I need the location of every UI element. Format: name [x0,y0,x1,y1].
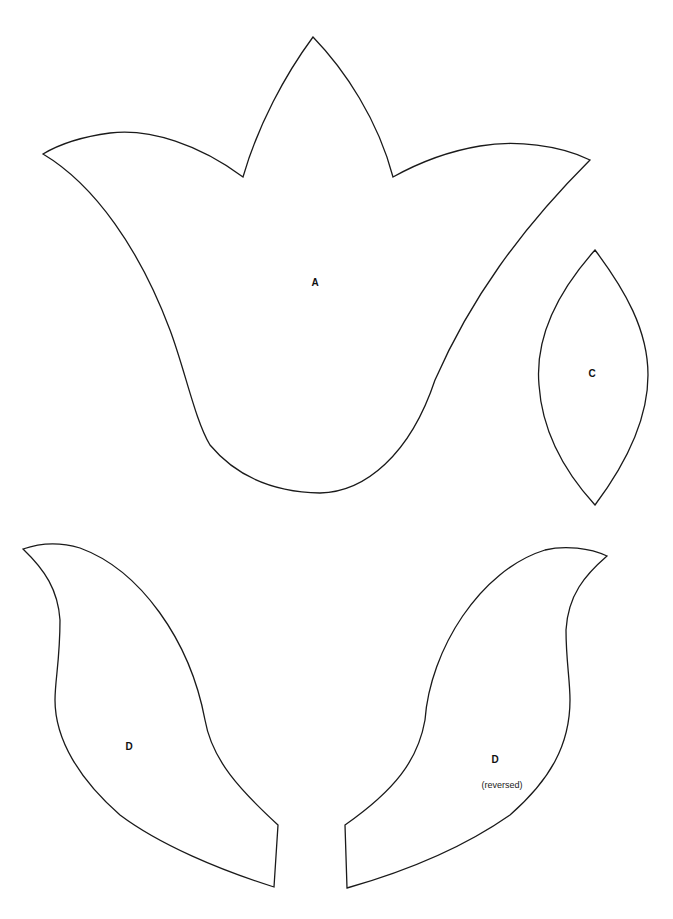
piece-a: A [43,37,590,493]
piece-d: D [23,544,278,887]
piece-a-label: A [311,277,318,288]
leaf-reversed-outline [345,548,607,888]
leaf-outline [23,544,278,887]
piece-d-reversed: D (reversed) [345,548,607,888]
piece-d-reversed-sublabel: (reversed) [481,780,522,790]
tulip-outline [43,37,590,493]
piece-d-reversed-label: D [491,754,498,765]
piece-d-label: D [125,741,132,752]
piece-c-label: C [588,368,595,379]
piece-c: C [538,250,648,505]
pattern-canvas: A C D D (reversed) [0,0,673,919]
